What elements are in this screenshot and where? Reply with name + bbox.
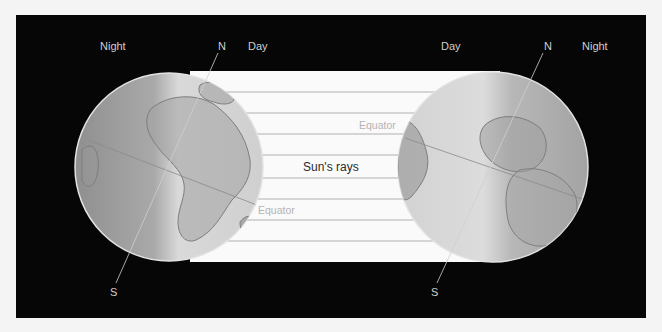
right-equator-label: Equator: [359, 119, 396, 131]
right-night-label: Night: [582, 40, 608, 52]
left-north-label: N: [218, 40, 226, 52]
left-south-label: S: [110, 286, 117, 298]
right-north-label: N: [544, 40, 552, 52]
left-night-label: Night: [100, 40, 126, 52]
sun-rays-label: Sun's rays: [303, 161, 359, 173]
earth-seasons-diagram: Night N Day S Equator Day N Night S Equa…: [0, 0, 662, 332]
left-day-label: Day: [248, 40, 268, 52]
right-south-label: S: [431, 286, 438, 298]
left-equator-label: Equator: [258, 204, 295, 216]
right-day-label: Day: [441, 40, 461, 52]
